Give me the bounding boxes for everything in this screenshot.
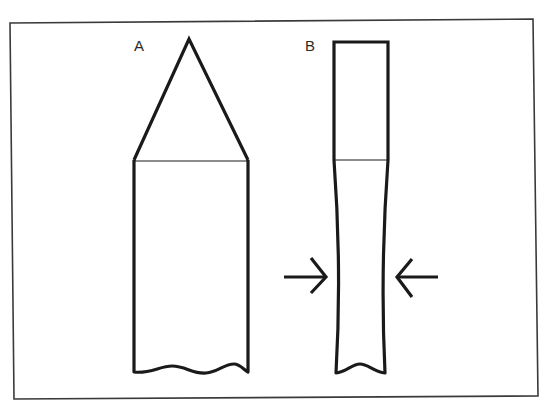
- shape-a-body: [134, 160, 248, 373]
- figure-frame: [10, 19, 538, 399]
- diagram-canvas: [0, 0, 549, 405]
- shape-b-body: [334, 160, 388, 373]
- label-a: A: [134, 37, 144, 54]
- arrow-right-icon: [284, 258, 326, 293]
- shape-a-tip: [134, 39, 248, 160]
- label-b: B: [305, 37, 315, 54]
- shape-b: [334, 42, 388, 373]
- arrow-left-icon: [397, 259, 438, 297]
- shape-b-top: [334, 42, 388, 160]
- shape-a: [134, 39, 248, 373]
